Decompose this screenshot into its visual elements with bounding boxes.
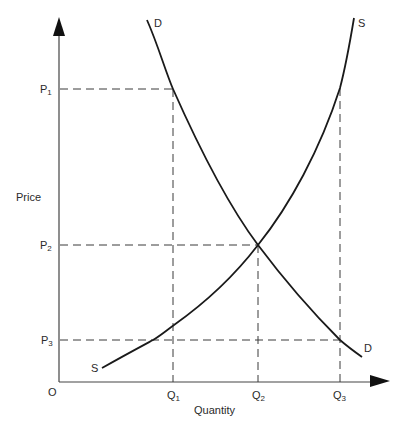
quantity-label-q1: Q1 (167, 389, 180, 405)
demand-curve (147, 20, 362, 357)
price-label-p1: P1 (40, 83, 52, 99)
demand-label-top: D (154, 17, 162, 29)
origin-label: O (48, 386, 57, 398)
guide-lines (60, 88, 340, 382)
supply-label-top: S (358, 17, 365, 29)
supply-demand-diagram (0, 0, 400, 425)
demand-label-bottom: D (364, 342, 372, 354)
price-label-p2: P2 (40, 239, 52, 255)
y-axis-arrow-icon (53, 17, 65, 36)
price-label-p3: P3 (41, 334, 53, 350)
supply-label-bottom: S (91, 362, 98, 374)
quantity-label-q3: Q3 (333, 389, 346, 405)
x-axis-label: Quantity (194, 404, 235, 416)
y-axis-label: Price (16, 191, 41, 203)
quantity-label-q2: Q2 (252, 389, 265, 405)
x-axis-arrow-icon (370, 375, 390, 387)
